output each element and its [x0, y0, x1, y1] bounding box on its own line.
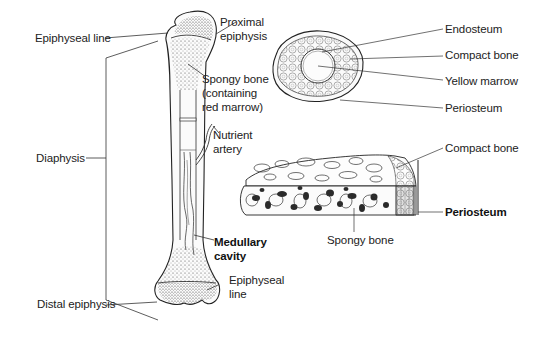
label-compact-bone-block: Compact bone — [445, 142, 519, 155]
label-epiphyseal-line-top: Epiphyseal line — [35, 32, 111, 45]
label-spongy-bone-line1: Spongy bone — [202, 73, 269, 86]
label-proximal-epiphysis-line1: Proximal — [220, 16, 264, 29]
long-bone-drawing — [155, 11, 220, 304]
label-endosteum: Endosteum — [445, 23, 502, 36]
label-diaphysis: Diaphysis — [36, 152, 85, 165]
label-medullary-cavity-line1: Medullary — [214, 236, 267, 249]
label-spongy-bone-line3: red marrow) — [202, 101, 263, 114]
label-compact-bone-cross: Compact bone — [445, 49, 519, 62]
label-spongy-bone-line2: (containing — [202, 87, 257, 100]
label-proximal-epiphysis-line2: epiphysis — [220, 30, 267, 43]
label-epiphyseal-line-bottom-line1: Epiphyseal — [229, 274, 284, 287]
label-spongy-bone-block: Spongy bone — [327, 234, 394, 247]
label-periosteum-cross: Periosteum — [445, 102, 502, 115]
bone-anatomy-diagram: Epiphyseal line Proximal epiphysis Spong… — [0, 0, 536, 337]
label-distal-epiphysis: Distal epiphysis — [37, 298, 115, 311]
label-periosteum-block: Periosteum — [445, 206, 507, 219]
label-nutrient-artery-line1: Nutrient — [213, 129, 252, 142]
label-yellow-marrow: Yellow marrow — [445, 75, 518, 88]
bone-block-drawing — [240, 155, 418, 215]
label-nutrient-artery-line2: artery — [213, 143, 242, 156]
label-epiphyseal-line-bottom-line2: line — [229, 288, 247, 301]
label-medullary-cavity-line2: cavity — [214, 250, 246, 263]
